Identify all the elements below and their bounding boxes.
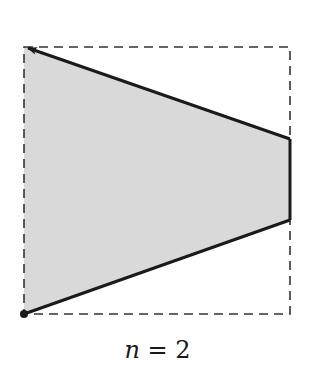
start-point-dot xyxy=(20,310,28,318)
shaded-region xyxy=(24,47,290,314)
diagram-figure: n = 2 xyxy=(0,0,315,389)
caption-variable: n xyxy=(124,336,139,364)
caption-label: n = 2 xyxy=(0,336,315,364)
caption-value: 2 xyxy=(175,336,190,364)
caption-equals: = xyxy=(140,336,175,364)
diagram-canvas xyxy=(0,0,315,389)
